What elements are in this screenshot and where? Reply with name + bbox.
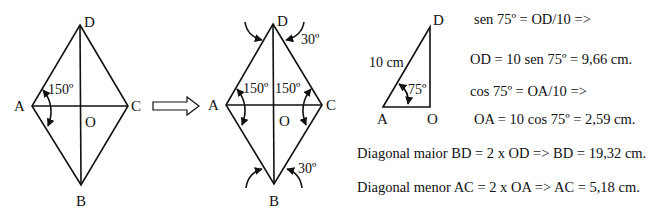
equation-od-value: OD = 10 sen 75º = 9,66 cm. [470, 52, 632, 67]
vertex-label-a: A [208, 97, 219, 113]
vertex-label-d: D [84, 14, 95, 30]
vertex-label-a: A [14, 98, 25, 114]
angle-label-a: 150º [243, 81, 269, 96]
vertex-label-d: D [277, 13, 288, 29]
rhombus-figure-1 [32, 25, 128, 185]
angle-label-b: 30º [298, 161, 317, 176]
equation-sen-75: sen 75º = OD/10 => [474, 12, 591, 27]
center-label-o: O [85, 114, 96, 130]
angle-arc-75 [399, 84, 408, 104]
vertex-label-o: O [427, 111, 438, 127]
hypotenuse-label: 10 cm [369, 55, 404, 70]
vertex-label-a: A [377, 111, 388, 127]
equation-diagonal-maior: Diagonal maior BD = 2 x OD => BD = 19,32… [357, 146, 646, 161]
angle-label-75: 75º [408, 82, 427, 97]
vertex-label-b: B [76, 193, 86, 209]
angle-label-c: 150º [275, 81, 301, 96]
angle-label-d: 30º [301, 32, 320, 47]
vertex-label-c: C [131, 98, 141, 114]
angle-arc-c [303, 89, 311, 125]
diagonal-bd [273, 24, 274, 184]
angle-label-a: 150º [48, 82, 74, 97]
equation-cos-75: cos 75º = OA/10 => [470, 84, 587, 99]
center-label-o: O [279, 113, 290, 129]
vertex-label-d: D [433, 12, 444, 28]
equation-oa-value: OA = 10 cos 75º = 2,59 cm. [474, 112, 635, 127]
vertex-label-b: B [269, 193, 279, 209]
angle-arc-d-left [245, 22, 262, 40]
vertex-label-c: C [326, 97, 336, 113]
angle-arc-b-left [246, 169, 262, 188]
equation-diagonal-menor: Diagonal menor AC = 2 x OA => AC = 5,18 … [357, 180, 640, 195]
diagonal-bd [80, 25, 81, 185]
right-arrow-icon [153, 97, 199, 115]
